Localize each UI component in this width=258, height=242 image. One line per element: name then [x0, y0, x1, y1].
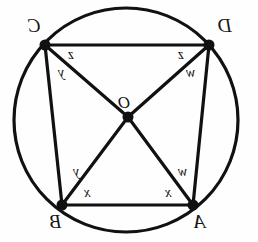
angle-label-x-at-b: x	[84, 186, 90, 200]
vertex-label-d: D	[218, 16, 232, 35]
angle-label-x-at-a: x	[165, 186, 171, 200]
geometry-diagram: C D B A O z y z w y x w x	[0, 0, 258, 242]
vertex-dot-c	[40, 40, 51, 51]
radius-co	[45, 45, 128, 117]
angle-label-y-at-b: y	[73, 165, 79, 179]
angle-label-z-at-d: z	[178, 48, 183, 62]
vertex-label-c: C	[28, 16, 41, 35]
vertex-dot-o	[123, 112, 134, 123]
angle-label-w-at-a: w	[178, 165, 187, 179]
centre-label-o: O	[118, 94, 130, 111]
angle-label-z-at-c: z	[68, 48, 73, 62]
vertex-label-a: A	[194, 212, 206, 231]
vertex-dot-d	[204, 40, 215, 51]
vertex-dot-b	[57, 200, 68, 211]
radius-ao	[128, 117, 193, 205]
vertex-label-b: B	[50, 212, 62, 231]
radius-do	[128, 45, 209, 117]
angle-label-w-at-d: w	[186, 66, 195, 80]
radius-bo	[62, 117, 128, 205]
geometry-canvas	[0, 0, 258, 242]
angle-label-y-at-c: y	[58, 66, 64, 80]
vertex-dot-a	[188, 200, 199, 211]
chord-da	[193, 45, 209, 205]
